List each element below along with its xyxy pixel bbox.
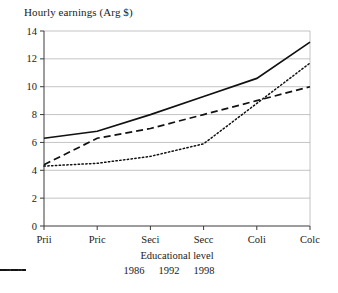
legend-label-1998: 1998 [194,266,215,277]
legend-label-1992: 1992 [159,266,180,277]
series-line-1992 [44,87,310,165]
chart-figure: Hourly earnings (Arg $) 02468101214 Prii… [0,0,338,293]
y-ticks-group [40,31,44,226]
axes-group [44,31,310,226]
y-tick-label-10: 10 [27,81,38,92]
legend-label-1986: 1986 [124,266,145,277]
x-tick-label-Coli: Coli [248,234,266,245]
legend-swatch-dotted [0,266,26,274]
chart-legend: 198619921998 [0,266,338,277]
y-tick-label-14: 14 [27,26,38,37]
y-tick-label-12: 12 [27,53,38,64]
series-group [44,42,310,166]
x-tick-label-Seci: Seci [141,234,159,245]
y-tick-label-0: 0 [32,221,37,232]
y-tick-label-4: 4 [32,165,38,176]
x-tick-label-Prii: Prii [36,234,51,245]
legend-item-1992[interactable]: 1992 [159,266,180,277]
x-tick-labels-group: PriiPricSeciSeccColiColc [36,234,320,245]
x-ticks-group [44,226,310,230]
series-line-1986 [44,42,310,138]
x-tick-label-Pric: Pric [89,234,106,245]
y-tick-label-6: 6 [32,137,37,148]
x-axis-title: Educational level [140,250,213,261]
gridlines-group [44,31,310,198]
legend-item-1986[interactable]: 1986 [124,266,145,277]
chart-plot-area: 02468101214 PriiPricSeciSeccColiColc Edu… [0,0,338,293]
x-tick-label-Colc: Colc [300,234,320,245]
x-tick-label-Secc: Secc [194,234,214,245]
y-tick-label-8: 8 [32,109,37,120]
y-tick-labels-group: 02468101214 [27,26,38,232]
legend-item-1998[interactable]: 1998 [194,266,215,277]
y-tick-label-2: 2 [32,193,37,204]
